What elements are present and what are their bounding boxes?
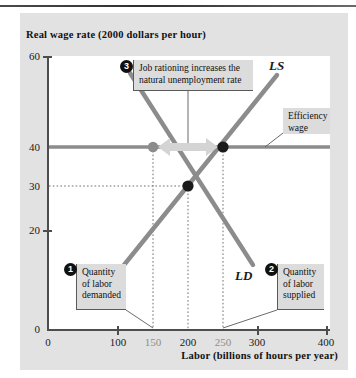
curve-label-LD: LD [235,268,252,284]
figure-root: Real wage rate (2000 dollars per hour) L… [0,0,356,378]
chart-svg [0,0,356,378]
callout-efficiency-wage: Efficiency wage [283,108,330,134]
curve-label-LS: LS [269,58,284,74]
callout-badge-1: 1 [64,263,77,276]
marker-quantity-demanded [148,142,158,152]
callout-1-line-3: demanded [82,290,121,302]
callout-2-line-2: of labor [283,279,319,291]
callout-badge-3: 3 [120,60,133,73]
callout-2-line-1: Quantity [283,267,319,279]
callout-3-line-2: natural unemployment rate [139,75,248,87]
marker-equilibrium [182,180,193,191]
leader-callout-1 [126,310,153,328]
callout-3-line-1: Job rationing increases the [139,63,248,75]
callout-quantity-demanded: Quantity of labor demanded [76,264,126,310]
leader-efficiency-wage [265,133,283,147]
callout-job-rationing: Job rationing increases the natural unem… [133,60,253,91]
efficiency-wage-line-1: Efficiency [288,111,325,123]
marker-quantity-supplied [217,141,228,152]
callout-1-line-1: Quantity [82,267,121,279]
callout-quantity-supplied: Quantity of labor supplied [277,264,324,310]
leader-lines [126,90,283,328]
leader-callout-2 [223,310,277,328]
callout-2-line-3: supplied [283,290,319,302]
callout-badge-2: 2 [265,263,278,276]
efficiency-wage-line-2: wage [288,123,325,135]
callout-1-line-2: of labor [82,279,121,291]
